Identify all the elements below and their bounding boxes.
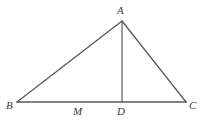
- vertex-label-a: A: [117, 5, 124, 16]
- vertex-label-d: D: [117, 106, 125, 117]
- segment-ab: [17, 21, 122, 102]
- vertex-label-m: M: [73, 106, 82, 117]
- triangle-diagram-svg: [0, 0, 207, 135]
- geometry-figure: A B C D M: [0, 0, 207, 135]
- vertex-label-c: C: [189, 100, 196, 111]
- segment-ac: [122, 21, 186, 102]
- vertex-label-b: B: [6, 100, 13, 111]
